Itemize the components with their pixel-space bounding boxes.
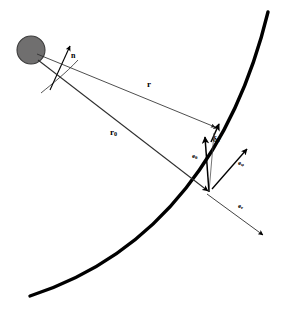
label-n: n <box>71 52 75 60</box>
vector-e-phi <box>212 149 247 189</box>
label-r0-subscript: 0 <box>114 131 117 137</box>
label-r0: r0 <box>110 128 117 137</box>
vector-r0 <box>38 60 208 191</box>
source-sphere <box>17 36 45 64</box>
label-r: r <box>147 80 151 89</box>
vector-n <box>50 46 70 90</box>
label-e-theta: eθ <box>192 153 198 161</box>
label-e-phi-subscript: φ <box>241 162 244 167</box>
diagram-canvas: n r r0 δr eθ eφ er <box>0 0 283 319</box>
label-e-phi: eφ <box>238 160 244 168</box>
label-e-r-subscript: r <box>241 205 243 210</box>
label-e-r: er <box>238 203 243 211</box>
label-delta-r: δr <box>213 136 221 144</box>
vector-e-r <box>207 194 263 235</box>
vector-e-theta <box>205 137 209 192</box>
vector-r <box>37 54 215 127</box>
label-e-theta-subscript: θ <box>195 155 197 160</box>
